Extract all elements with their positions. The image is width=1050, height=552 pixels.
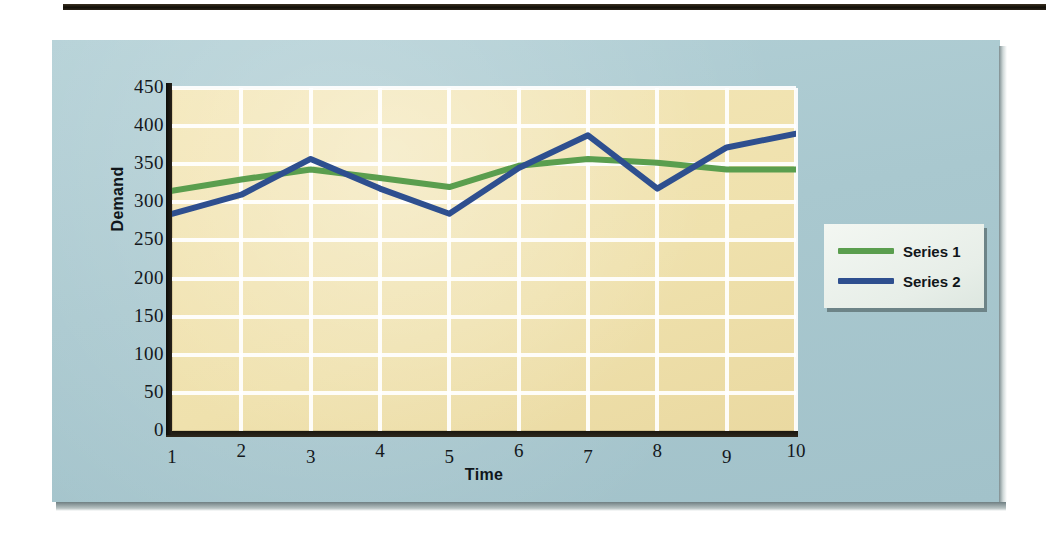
x-axis-tick-label: 9 (707, 446, 747, 468)
y-axis-tick-label: 250 (102, 228, 164, 250)
y-axis-tick-label: 200 (102, 267, 164, 289)
legend-label-series-2: Series 2 (903, 273, 961, 290)
legend-item-series-2: Series 2 (838, 270, 961, 292)
y-axis-tick-label: 300 (102, 190, 164, 212)
x-axis-tick-label: 3 (291, 446, 331, 468)
plot-area (172, 88, 796, 431)
legend-label-series-1: Series 1 (903, 243, 961, 260)
page-top-rule (63, 4, 1046, 10)
y-axis-tick-label: 350 (102, 152, 164, 174)
figure-panel: Demand 050100150200250300350400450 12345… (52, 40, 1000, 502)
legend-swatch-series-2 (838, 278, 894, 284)
y-axis-tick-labels: 050100150200250300350400450 (98, 88, 164, 431)
y-axis-tick-label: 150 (102, 305, 164, 327)
legend-swatch-series-1 (838, 248, 894, 254)
y-axis-tick-label: 400 (102, 114, 164, 136)
legend-item-series-1: Series 1 (838, 240, 961, 262)
x-axis-tick-label: 1 (152, 446, 192, 468)
y-axis-tick-label: 450 (102, 76, 164, 98)
x-axis-title: Time (172, 466, 796, 484)
chart-legend: Series 1 Series 2 (824, 224, 984, 308)
series-lines (172, 88, 796, 431)
x-axis-tick-labels: 12345678910 (172, 438, 796, 464)
y-axis-tick-label: 100 (102, 343, 164, 365)
y-axis-tick-label: 50 (102, 381, 164, 403)
x-axis-tick-label: 8 (637, 440, 677, 462)
x-axis-tick-label: 10 (776, 440, 816, 462)
y-axis-tick-label: 0 (102, 419, 164, 441)
x-axis-tick-label: 5 (429, 446, 469, 468)
x-axis-tick-label: 4 (360, 440, 400, 462)
x-axis-tick-label: 7 (568, 446, 608, 468)
x-axis-tick-label: 6 (499, 440, 539, 462)
x-axis-tick-label: 2 (221, 440, 261, 462)
